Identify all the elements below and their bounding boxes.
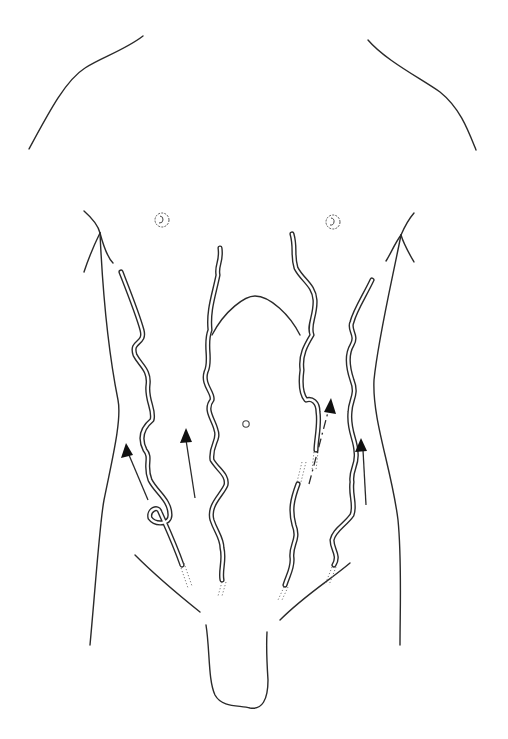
left-lateral-vein <box>121 272 192 588</box>
costal-arch-outline <box>212 296 300 335</box>
left-inguinal-fold <box>135 555 200 612</box>
flow-arrow-left-medial <box>180 428 195 498</box>
right-shoulder-outline <box>368 40 476 150</box>
diagram-svg <box>0 0 508 739</box>
flow-arrow-right-lateral <box>355 438 367 505</box>
torso-vein-diagram <box>0 0 508 739</box>
right-medial-vein <box>278 234 319 600</box>
umbilicus-icon <box>243 421 249 427</box>
flow-arrow-right-medial <box>309 398 336 484</box>
genitalia-outline <box>206 625 268 708</box>
right-lateral-vein <box>325 280 372 585</box>
left-nipple-icon <box>155 213 169 227</box>
right-flank-outline <box>374 213 414 645</box>
left-flank-outline <box>84 211 119 645</box>
left-shoulder-outline <box>29 36 143 149</box>
left-medial-vein <box>205 248 226 596</box>
right-nipple-icon <box>326 215 340 229</box>
